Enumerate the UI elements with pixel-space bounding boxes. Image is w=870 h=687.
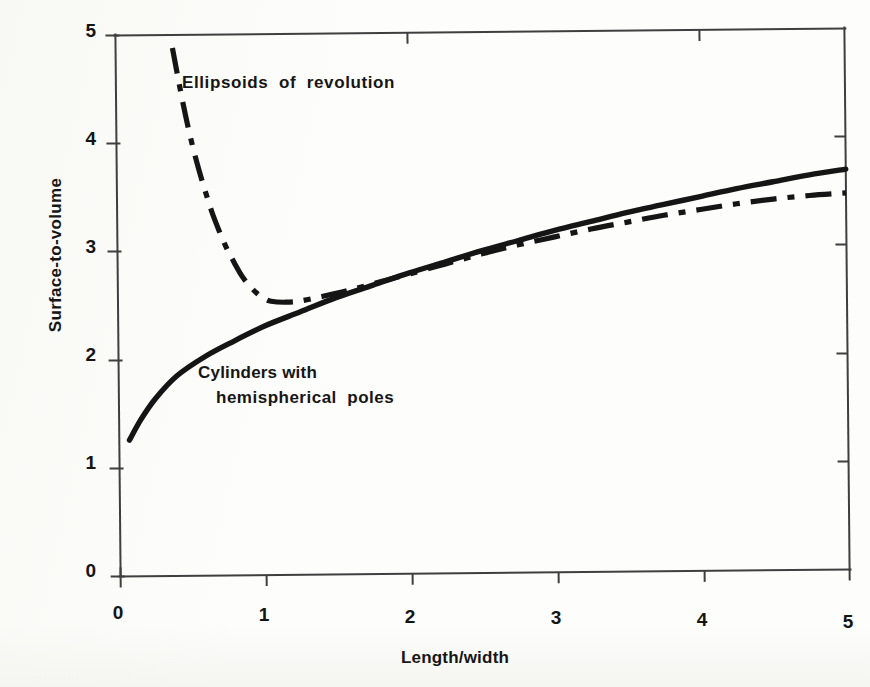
series-annotation-cylinders: Cylinders withhemispherical poles [198, 360, 394, 410]
x-axis-title: Length/width [0, 648, 870, 668]
y-tick-label-4: 4 [72, 128, 96, 150]
x-tick-label-2: 2 [398, 606, 422, 628]
right-axis-line [844, 27, 849, 571]
y-tick-label-5: 5 [72, 20, 96, 42]
y-axis-ticks [105, 35, 124, 576]
x-axis-line [119, 569, 852, 576]
y-tick-label-1: 1 [72, 452, 96, 474]
x-tick-label-5: 5 [836, 611, 860, 633]
x-tick-label-4: 4 [690, 609, 714, 631]
chart-plot-area [0, 0, 870, 687]
x-tick-label-1: 1 [252, 604, 276, 626]
y-tick-label-3: 3 [72, 236, 96, 258]
top-axis-line [113, 28, 846, 35]
y-tick-label-0: 0 [72, 560, 96, 582]
y-axis-line [115, 34, 120, 578]
x-tick-label-0: 0 [106, 602, 130, 624]
y-tick-label-2: 2 [72, 344, 96, 366]
series-annotation-cylinders-line1: Cylinders with [198, 363, 317, 382]
chart-page: 0 1 2 3 4 5 0 1 2 3 4 5 Surface-to-volum… [0, 0, 870, 687]
axis-frame [105, 26, 851, 587]
y-axis-title: Surface-to-volume [46, 155, 66, 355]
series-annotation-ellipsoids: Ellipsoids of revolution [182, 70, 395, 95]
series-annotation-cylinders-line2: hemispherical poles [198, 385, 394, 410]
page-caption [0, 676, 870, 687]
x-tick-label-3: 3 [544, 607, 568, 629]
